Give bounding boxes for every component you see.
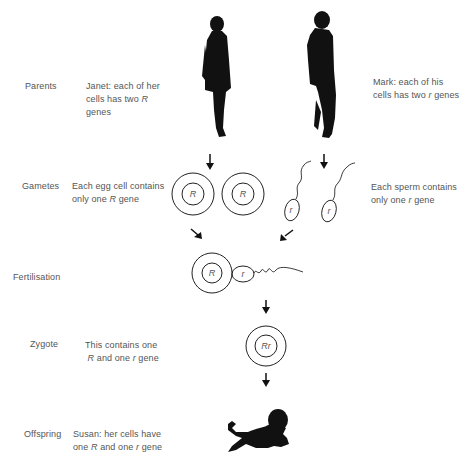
egg-cell-1: R <box>172 173 214 215</box>
arrow-sperm-to-fertilisation <box>280 230 293 241</box>
svg-text:r: r <box>290 205 294 215</box>
svg-text:R: R <box>240 189 247 199</box>
svg-text:R: R <box>190 189 197 199</box>
arrow-egg-to-fertilisation <box>191 229 202 239</box>
arrow-mother-to-egg <box>206 154 214 170</box>
arrow-father-to-sperm <box>320 154 328 169</box>
egg-cell-2: R <box>222 173 264 215</box>
svg-text:r: r <box>328 206 332 216</box>
diagram-artwork: R R r r R r Rr <box>0 0 476 467</box>
man-silhouette-icon <box>307 11 336 138</box>
svg-text:Rr: Rr <box>261 341 271 351</box>
arrow-zygote-to-offspring <box>262 373 270 387</box>
svg-text:R: R <box>209 268 216 278</box>
sperm-cell-1: r <box>282 161 311 222</box>
zygote-cell: Rr <box>246 326 286 366</box>
sperm-cell-2: r <box>319 163 355 223</box>
arrow-fertilisation-to-zygote <box>262 300 270 314</box>
baby-silhouette-icon <box>228 409 289 452</box>
woman-silhouette-icon <box>202 16 231 137</box>
fertilisation-cell: R r <box>192 253 303 293</box>
svg-text:r: r <box>242 269 246 279</box>
